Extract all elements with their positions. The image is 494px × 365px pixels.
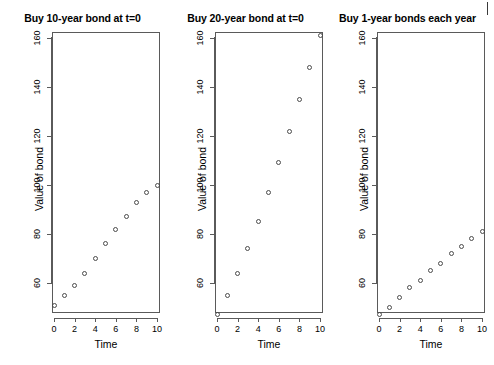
x-axis-tick bbox=[420, 318, 421, 322]
y-axis-tick-label: 120 bbox=[357, 121, 367, 151]
y-axis-tick-label: 80 bbox=[195, 219, 205, 249]
y-axis-tick-label: 140 bbox=[32, 72, 42, 102]
data-point bbox=[72, 283, 77, 288]
top-right-tick-mark bbox=[487, 2, 488, 15]
x-axis-tick bbox=[400, 318, 401, 322]
x-axis-tick bbox=[279, 318, 280, 322]
x-axis-title: Time bbox=[52, 338, 160, 350]
data-point bbox=[225, 293, 230, 298]
y-axis-tick bbox=[47, 38, 51, 39]
x-axis-tick-label: 4 bbox=[85, 324, 105, 334]
x-axis-tick bbox=[217, 318, 218, 322]
data-point bbox=[266, 190, 271, 195]
x-axis-tick-label: 4 bbox=[410, 324, 430, 334]
data-point bbox=[93, 256, 98, 261]
y-axis-tick bbox=[47, 136, 51, 137]
y-axis-tick bbox=[47, 234, 51, 235]
panel-title: Buy 20-year bond at t=0 bbox=[163, 12, 328, 24]
panel-title: Buy 10-year bond at t=0 bbox=[0, 12, 165, 24]
x-axis-title: Time bbox=[377, 338, 485, 350]
x-axis-tick-label: 0 bbox=[207, 324, 227, 334]
y-axis-tick bbox=[372, 234, 376, 235]
y-axis-tick-label: 120 bbox=[195, 121, 205, 151]
y-axis-tick-label: 100 bbox=[357, 170, 367, 200]
x-axis-line bbox=[379, 318, 482, 319]
y-axis-tick-label: 100 bbox=[32, 170, 42, 200]
x-axis-tick bbox=[95, 318, 96, 322]
chart-panel-2: Buy 20-year bond at t=0 Value of bond Ti… bbox=[163, 0, 328, 365]
chart-panel-1: Buy 10-year bond at t=0 Value of bond Ti… bbox=[0, 0, 165, 365]
x-axis-tick bbox=[461, 318, 462, 322]
x-axis-tick-label: 8 bbox=[126, 324, 146, 334]
x-axis-tick bbox=[157, 318, 158, 322]
y-axis-tick bbox=[372, 87, 376, 88]
y-axis-tick-label: 80 bbox=[32, 219, 42, 249]
data-point bbox=[418, 278, 423, 283]
y-axis-tick bbox=[47, 283, 51, 284]
y-axis-tick-label: 60 bbox=[195, 268, 205, 298]
x-axis-tick-label: 6 bbox=[269, 324, 289, 334]
data-point bbox=[377, 312, 382, 317]
data-point bbox=[124, 214, 129, 219]
data-point bbox=[449, 251, 454, 256]
data-point bbox=[256, 219, 261, 224]
x-axis-line bbox=[217, 318, 320, 319]
y-axis-tick-label: 60 bbox=[32, 268, 42, 298]
y-axis-tick-label: 140 bbox=[357, 72, 367, 102]
data-point bbox=[215, 312, 220, 317]
x-axis-tick-label: 6 bbox=[431, 324, 451, 334]
y-axis-line bbox=[51, 37, 52, 284]
y-axis-tick bbox=[210, 38, 214, 39]
panel-title: Buy 1-year bonds each year bbox=[325, 12, 490, 24]
y-axis-tick bbox=[372, 136, 376, 137]
x-axis-tick bbox=[379, 318, 380, 322]
data-point bbox=[480, 229, 485, 234]
x-axis-tick-label: 8 bbox=[451, 324, 471, 334]
x-axis-tick bbox=[482, 318, 483, 322]
y-axis-tick bbox=[372, 185, 376, 186]
x-axis-tick-label: 6 bbox=[106, 324, 126, 334]
x-axis-tick bbox=[54, 318, 55, 322]
data-point bbox=[155, 183, 160, 188]
y-axis-tick-label: 160 bbox=[195, 23, 205, 53]
x-axis-tick-label: 4 bbox=[248, 324, 268, 334]
y-axis-tick bbox=[210, 234, 214, 235]
data-point bbox=[52, 303, 57, 308]
data-point bbox=[318, 33, 323, 38]
plot-area bbox=[215, 32, 323, 313]
y-axis-tick bbox=[372, 283, 376, 284]
y-axis-tick-label: 100 bbox=[195, 170, 205, 200]
x-axis-tick bbox=[116, 318, 117, 322]
data-point bbox=[113, 227, 118, 232]
y-axis-tick-label: 120 bbox=[32, 121, 42, 151]
x-axis-tick bbox=[75, 318, 76, 322]
x-axis-tick-label: 2 bbox=[65, 324, 85, 334]
data-point bbox=[459, 244, 464, 249]
y-axis-tick bbox=[210, 185, 214, 186]
x-axis-tick bbox=[136, 318, 137, 322]
x-axis-tick-label: 2 bbox=[390, 324, 410, 334]
data-point bbox=[235, 271, 240, 276]
x-axis-tick bbox=[238, 318, 239, 322]
x-axis-tick-label: 10 bbox=[472, 324, 492, 334]
x-axis-tick-label: 0 bbox=[369, 324, 389, 334]
x-axis-line bbox=[54, 318, 157, 319]
y-axis-tick bbox=[210, 283, 214, 284]
x-axis-tick-label: 0 bbox=[44, 324, 64, 334]
y-axis-tick bbox=[210, 136, 214, 137]
y-axis-line bbox=[376, 37, 377, 284]
data-point bbox=[297, 97, 302, 102]
x-axis-tick bbox=[441, 318, 442, 322]
data-point bbox=[287, 129, 292, 134]
y-axis-tick-label: 160 bbox=[357, 23, 367, 53]
bond-value-figure: Buy 10-year bond at t=0 Value of bond Ti… bbox=[0, 0, 494, 365]
x-axis-tick bbox=[258, 318, 259, 322]
x-axis-tick bbox=[320, 318, 321, 322]
y-axis-line bbox=[214, 37, 215, 284]
x-axis-tick-label: 8 bbox=[289, 324, 309, 334]
plot-area bbox=[52, 32, 160, 313]
data-point bbox=[387, 305, 392, 310]
chart-panel-3: Buy 1-year bonds each year Value of bond… bbox=[325, 0, 490, 365]
data-point bbox=[134, 200, 139, 205]
y-axis-tick-label: 140 bbox=[195, 72, 205, 102]
